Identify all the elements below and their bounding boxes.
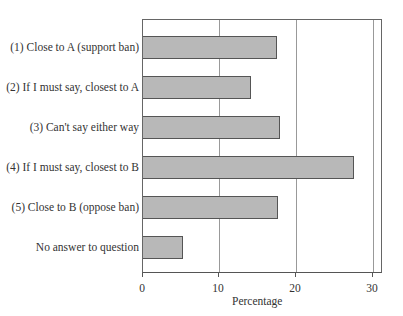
bar-cant-say [143, 116, 280, 139]
bar-closest-to-b [143, 156, 354, 179]
category-label: (4) If I must say, closest to B [6, 160, 139, 174]
category-label: (3) Can't say either way [30, 120, 139, 134]
bar-close-to-a [143, 36, 277, 59]
category-label: (2) If I must say, closest to A [6, 80, 139, 94]
gridline-30 [373, 20, 374, 272]
gridline-20 [296, 20, 297, 272]
category-label: (1) Close to A (support ban) [10, 40, 139, 54]
bar-close-to-b [143, 196, 278, 219]
x-tick-label: 0 [139, 282, 145, 294]
x-tick-mark [142, 273, 143, 277]
category-label: No answer to question [36, 240, 139, 254]
x-tick-mark [372, 273, 373, 277]
x-tick-mark [218, 273, 219, 277]
bar-no-answer [143, 236, 183, 259]
bar-closest-to-a [143, 76, 251, 99]
x-tick-label: 20 [289, 282, 301, 294]
x-tick-label: 30 [366, 282, 378, 294]
plot-area [142, 19, 382, 273]
x-tick-mark [295, 273, 296, 277]
category-label: (5) Close to B (oppose ban) [12, 200, 139, 214]
x-tick-label: 10 [212, 282, 224, 294]
x-axis-label: Percentage [232, 295, 282, 307]
